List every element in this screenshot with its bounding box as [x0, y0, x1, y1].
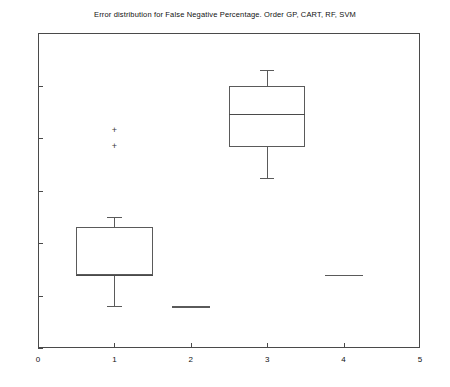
y-axis-tick: [38, 348, 43, 349]
x-axis-tick-label: 4: [334, 355, 354, 364]
x-axis-tick-label: 5: [410, 355, 430, 364]
chart-title: Error distribution for False Negative Pe…: [0, 10, 450, 19]
x-axis-tick-label: 3: [257, 355, 277, 364]
plot-area: ++: [38, 33, 420, 348]
x-axis-tick-label: 1: [104, 355, 124, 364]
boxplot-figure: Error distribution for False Negative Pe…: [0, 0, 450, 387]
box-median-line: [325, 275, 363, 277]
x-axis-tick-label: 2: [181, 355, 201, 364]
box-plot-group: [38, 33, 420, 348]
x-axis-tick-label: 0: [28, 355, 48, 364]
